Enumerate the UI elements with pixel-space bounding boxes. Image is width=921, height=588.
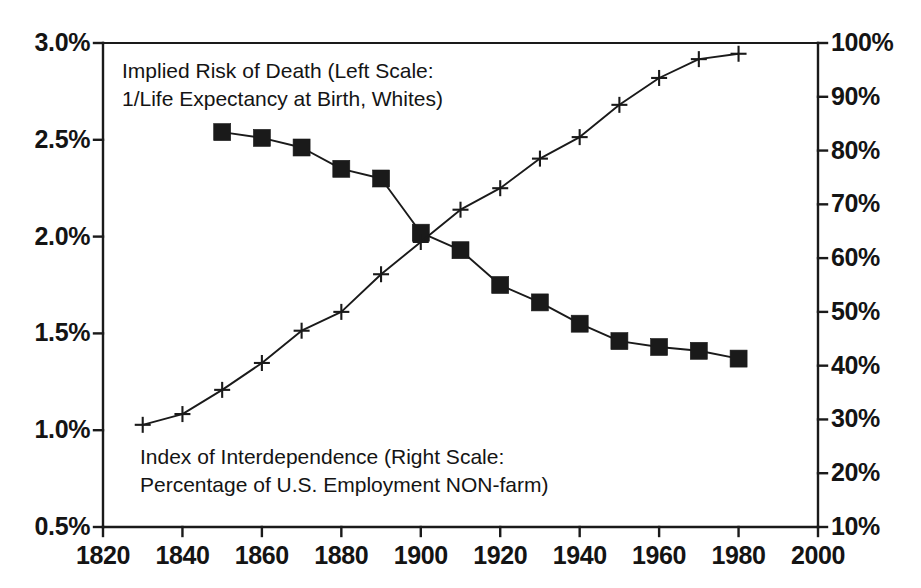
y-axis-right-tick-label: 50%: [831, 299, 880, 324]
y-axis-right-tick-label: 90%: [831, 84, 880, 109]
data-point-marker-square: [531, 294, 548, 311]
interdependence-annotation-line-1: Index of Interdependence (Right Scale:: [140, 443, 548, 471]
series-line: [222, 132, 738, 359]
data-point-marker-square: [730, 350, 747, 367]
data-point-marker-square: [373, 170, 390, 187]
data-point-marker-square: [253, 129, 270, 146]
y-axis-right-tick-label: 60%: [831, 245, 880, 270]
interdependence-annotation-line-2: Percentage of U.S. Employment NON-farm): [140, 471, 548, 499]
interdependence-annotation: Index of Interdependence (Right Scale:Pe…: [140, 443, 548, 500]
chart-figure: 0.5%1.0%1.5%2.0%2.5%3.0%10%20%30%40%50%6…: [0, 0, 921, 588]
data-point-marker-square: [492, 277, 509, 294]
data-point-marker-square: [690, 342, 707, 359]
data-point-marker-square: [293, 139, 310, 156]
y-axis-right-tick-label: 10%: [831, 514, 880, 539]
y-axis-left-tick-label: 2.0%: [35, 224, 90, 249]
y-axis-right-tick-label: 30%: [831, 406, 880, 431]
death-risk-annotation-line-1: Implied Risk of Death (Left Scale:: [122, 57, 443, 85]
data-point-marker-square: [333, 160, 350, 177]
data-point-marker-square: [452, 242, 469, 259]
x-axis-tick-label: 2000: [768, 543, 868, 568]
data-point-marker-square: [571, 315, 588, 332]
data-point-marker-square: [214, 124, 231, 141]
data-point-marker-square: [651, 339, 668, 356]
data-point-marker-square: [611, 333, 628, 350]
y-axis-right-tick-label: 80%: [831, 138, 880, 163]
y-axis-right-tick-label: 100%: [831, 30, 893, 55]
death-risk-annotation-line-2: 1/Life Expectancy at Birth, Whites): [122, 85, 443, 113]
death-risk-annotation: Implied Risk of Death (Left Scale:1/Life…: [122, 57, 443, 114]
y-axis-left-tick-label: 1.0%: [35, 417, 90, 442]
y-axis-left-tick-label: 2.5%: [35, 127, 90, 152]
y-axis-right-tick-label: 20%: [831, 460, 880, 485]
y-axis-right-tick-label: 40%: [831, 353, 880, 378]
y-axis-right-tick-label: 70%: [831, 191, 880, 216]
y-axis-left-tick-label: 3.0%: [35, 30, 90, 55]
y-axis-left-tick-label: 1.5%: [35, 320, 90, 345]
y-axis-left-tick-label: 0.5%: [35, 514, 90, 539]
